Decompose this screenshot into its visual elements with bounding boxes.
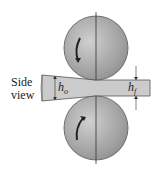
side-label-line2: view bbox=[11, 89, 34, 102]
o-subscript: o bbox=[64, 87, 68, 96]
final-thickness-label: hf bbox=[128, 81, 136, 98]
rolling-diagram: Side view ho hf bbox=[0, 0, 158, 179]
f-subscript: f bbox=[134, 87, 136, 96]
side-view-label: Side view bbox=[11, 76, 34, 102]
initial-thickness-label: ho bbox=[58, 81, 68, 98]
